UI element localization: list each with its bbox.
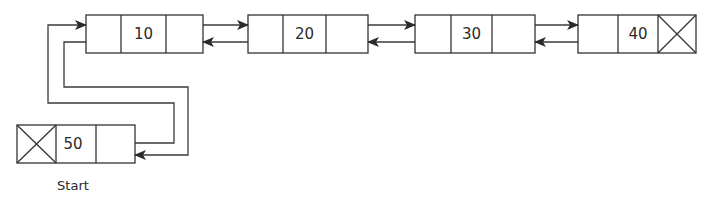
node-40: 40: [578, 15, 696, 53]
node-value: 50: [63, 135, 82, 153]
node-value: 20: [295, 25, 314, 43]
node-value: 10: [134, 25, 153, 43]
start-label: Start: [57, 178, 89, 193]
node-value: 40: [628, 25, 647, 43]
node-50: 50: [17, 125, 135, 163]
node-20: 20: [248, 15, 368, 53]
node-value: 30: [462, 25, 481, 43]
linked-list-diagram: 10 20 30 40 50: [0, 0, 704, 201]
node-10: 10: [86, 15, 203, 53]
node-30: 30: [415, 15, 535, 53]
